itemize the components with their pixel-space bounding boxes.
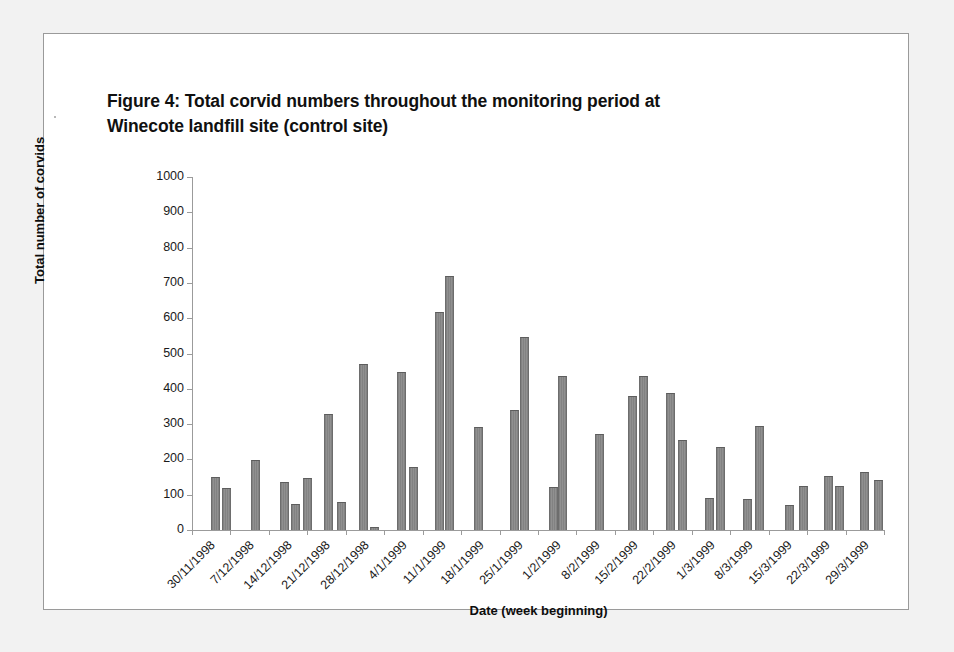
- screenshot-page: Figure 4: Total corvid numbers throughou…: [0, 0, 954, 652]
- y-axis-tick: [187, 318, 193, 319]
- figure-title-line-1: Figure 4: Total corvid numbers throughou…: [107, 89, 807, 114]
- x-axis-tick: [461, 530, 462, 535]
- y-axis-tick-label: 100: [144, 487, 184, 501]
- bar: [474, 427, 483, 530]
- x-axis-tick: [384, 530, 385, 535]
- bar: [824, 476, 833, 530]
- bar: [435, 312, 444, 530]
- y-axis-tick-label: 1000: [144, 169, 184, 183]
- bar: [549, 487, 558, 530]
- y-axis-tick: [187, 354, 193, 355]
- x-axis-tick: [230, 530, 231, 535]
- bar: [370, 527, 379, 530]
- speck-artifact: [54, 116, 56, 118]
- figure-frame: Figure 4: Total corvid numbers throughou…: [43, 33, 909, 610]
- x-axis-title: Date (week beginning): [192, 603, 885, 618]
- x-axis-tick: [346, 530, 347, 535]
- y-axis-tick-label: 0: [144, 522, 184, 536]
- bar: [628, 396, 637, 530]
- bar: [280, 482, 289, 530]
- bar: [705, 498, 714, 530]
- x-axis-tick-label: 1/3/1999: [674, 538, 718, 582]
- figure-title: Figure 4: Total corvid numbers throughou…: [107, 89, 807, 139]
- y-axis-tick: [187, 495, 193, 496]
- bar: [743, 499, 752, 530]
- x-axis-tick: [615, 530, 616, 535]
- bar: [595, 434, 604, 530]
- y-axis-tick: [187, 248, 193, 249]
- bar: [324, 414, 333, 530]
- x-axis-tick: [538, 530, 539, 535]
- x-axis-tick: [730, 530, 731, 535]
- bar: [303, 478, 312, 530]
- bar: [251, 460, 260, 530]
- bar: [211, 477, 220, 530]
- x-axis-tick-label: 1/2/1999: [520, 538, 564, 582]
- bar: [520, 337, 529, 530]
- y-axis-tick-label: 400: [144, 381, 184, 395]
- y-axis-title: Total number of corvids: [32, 137, 47, 284]
- bar: [799, 486, 808, 530]
- y-axis-tick-label: 500: [144, 346, 184, 360]
- x-axis-tick: [423, 530, 424, 535]
- x-axis-tick: [269, 530, 270, 535]
- bar: [359, 364, 368, 530]
- figure-title-line-2: Winecote landfill site (control site): [107, 114, 807, 139]
- x-axis-tick: [769, 530, 770, 535]
- y-axis-tick-label: 900: [144, 204, 184, 218]
- bar: [337, 502, 346, 530]
- x-axis-tick: [653, 530, 654, 535]
- y-axis-tick: [187, 459, 193, 460]
- bar: [666, 393, 675, 530]
- y-axis-tick: [187, 177, 193, 178]
- y-axis-tick-label: 300: [144, 416, 184, 430]
- y-axis-tick: [187, 212, 193, 213]
- bar: [510, 410, 519, 530]
- x-axis-tick: [307, 530, 308, 535]
- bar: [409, 467, 418, 530]
- y-axis-tick: [187, 389, 193, 390]
- y-axis-tick: [187, 283, 193, 284]
- x-axis-tick: [846, 530, 847, 535]
- bar: [291, 504, 300, 530]
- x-axis-tick: [192, 530, 193, 535]
- bar: [222, 488, 231, 530]
- y-axis-tick-label: 700: [144, 275, 184, 289]
- bar: [716, 447, 725, 530]
- bar: [445, 276, 454, 530]
- y-axis-tick-label: 600: [144, 310, 184, 324]
- bar: [785, 505, 794, 530]
- bar: [860, 472, 869, 530]
- bar: [558, 376, 567, 530]
- bar: [639, 376, 648, 530]
- bar: [678, 440, 687, 530]
- x-axis-tick: [576, 530, 577, 535]
- x-axis-tick: [692, 530, 693, 535]
- y-axis-tick-label: 200: [144, 451, 184, 465]
- bar: [755, 426, 764, 530]
- bar: [835, 486, 844, 530]
- x-axis-tick: [500, 530, 501, 535]
- bar: [874, 480, 883, 530]
- bar: [397, 372, 406, 530]
- x-axis-tick: [807, 530, 808, 535]
- y-axis-tick-label: 800: [144, 240, 184, 254]
- x-axis-tick-label: 30/11/1998: [165, 538, 218, 591]
- x-axis-tick: [884, 530, 885, 535]
- y-axis-tick: [187, 424, 193, 425]
